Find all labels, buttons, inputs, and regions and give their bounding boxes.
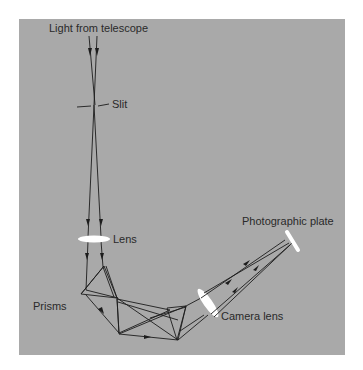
photographic-plate xyxy=(287,232,298,250)
diverging-rays xyxy=(85,105,104,290)
label-camera-lens: Camera lens xyxy=(221,310,284,322)
label-prisms: Prisms xyxy=(33,300,67,312)
prism-rays xyxy=(81,266,208,340)
camera-lens xyxy=(195,286,222,319)
label-photographic-plate: Photographic plate xyxy=(242,215,334,227)
prisms xyxy=(81,266,186,340)
slit xyxy=(77,104,109,107)
label-light-source: Light from telescope xyxy=(49,22,148,34)
label-lens: Lens xyxy=(113,233,137,245)
label-slit: Slit xyxy=(112,98,127,110)
collimator-lens xyxy=(78,236,110,243)
spectrograph-diagram: Light from telescope Slit Lens Prisms Ca… xyxy=(0,0,363,370)
incoming-rays xyxy=(88,36,99,105)
